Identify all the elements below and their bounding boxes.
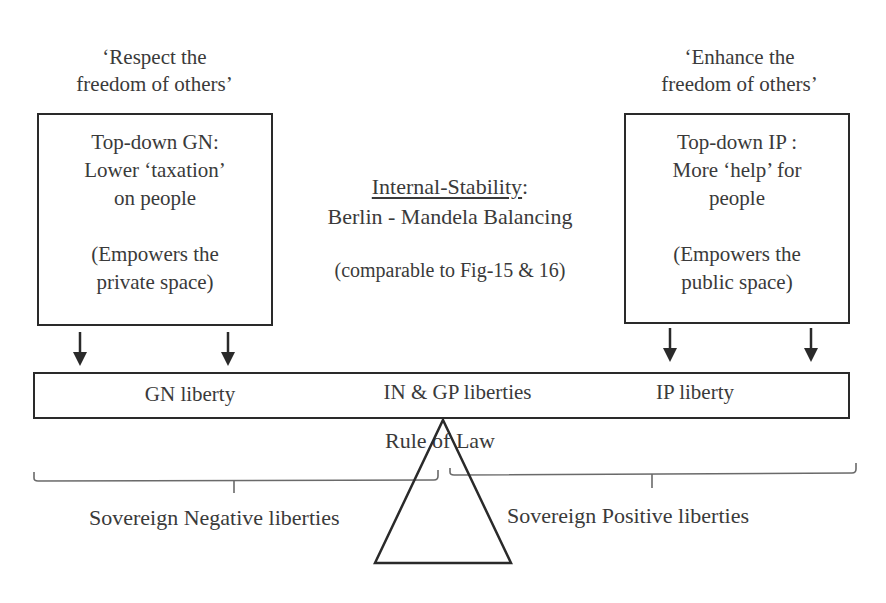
fulcrum-triangle <box>375 420 511 563</box>
arrow-down-icon <box>221 332 235 366</box>
left-brace <box>34 470 438 493</box>
arrow-down-icon <box>73 332 87 366</box>
arrow-down-icon <box>804 328 818 362</box>
arrow-down-icon <box>663 328 677 362</box>
diagram-lines <box>0 0 886 603</box>
right-brace <box>450 463 856 488</box>
